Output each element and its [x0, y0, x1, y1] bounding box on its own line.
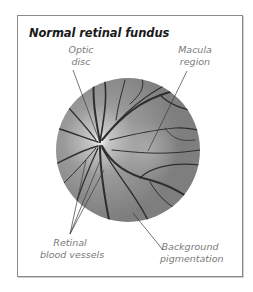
fundus-illustration — [0, 0, 253, 292]
